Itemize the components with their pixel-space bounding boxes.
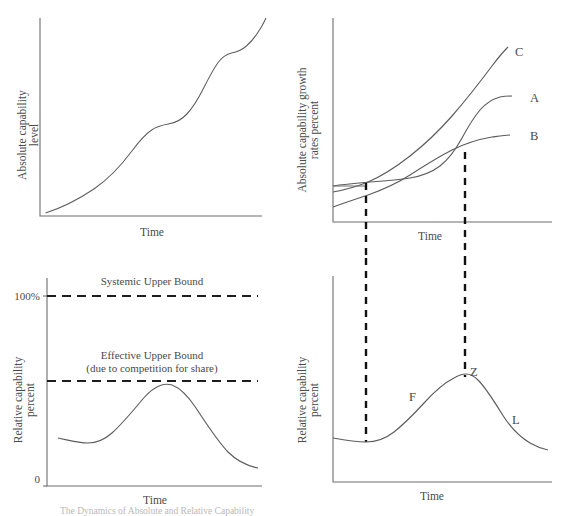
curve-label-C: C <box>515 45 523 59</box>
systemic-upper-bound-label: Systemic Upper Bound <box>101 275 204 287</box>
y-axis-title-line2: rates percent <box>308 100 321 159</box>
x-axis-title-top-right: Time <box>418 230 442 242</box>
figure-caption: The Dynamics of Absolute and Relative Ca… <box>60 506 254 516</box>
four-panel-capability-figure: Absolute capability level Time Absolute … <box>0 0 562 516</box>
curve-label-B: B <box>530 129 538 143</box>
curve-A <box>333 96 512 186</box>
panel-top-left: Absolute capability level Time <box>16 18 266 238</box>
y-axis-title-bottom-left: Relative capability percent <box>12 356 37 443</box>
x-axis-title-top-left: Time <box>140 226 164 238</box>
point-label-F: F <box>409 390 416 404</box>
y-axis-title-top-right: Absolute capability growth rates percent <box>296 67 321 192</box>
y-tick-label-0: 0 <box>35 473 41 485</box>
figure-canvas: Absolute capability level Time Absolute … <box>0 0 562 516</box>
y-axis-title-line2: level <box>28 124 40 146</box>
x-axis-title-bottom-right: Time <box>420 490 444 502</box>
effective-upper-bound-label-line1: Effective Upper Bound <box>101 349 204 361</box>
y-tick-label-100: 100% <box>14 290 40 302</box>
y-axis-title-line2: percent <box>24 382 37 417</box>
curve-label-A: A <box>530 91 539 105</box>
effective-upper-bound-label-line2: (due to competition for share) <box>86 362 218 375</box>
axes-top-left <box>40 18 262 216</box>
y-axis-title-line2: percent <box>308 382 321 417</box>
y-axis-title-bottom-right: Relative capability percent <box>296 356 321 443</box>
x-axis-title-bottom-left: Time <box>143 494 167 506</box>
point-label-L: L <box>512 413 520 427</box>
curve-relative-capability-bounded <box>58 384 258 468</box>
curve-C <box>333 47 508 192</box>
panel-bottom-left: 100% 0 Systemic Upper Bound Effective Up… <box>12 275 262 506</box>
curve-relative-capability-trajectory <box>333 374 548 450</box>
panel-bottom-right: F Z L Relative capability percent Time <box>296 258 552 502</box>
curve-absolute-capability <box>46 18 266 213</box>
point-label-Z: Z <box>470 365 478 379</box>
panel-top-right: Absolute capability growth rates percent… <box>296 18 552 258</box>
y-axis-title-top-left: Absolute capability level <box>16 90 40 180</box>
